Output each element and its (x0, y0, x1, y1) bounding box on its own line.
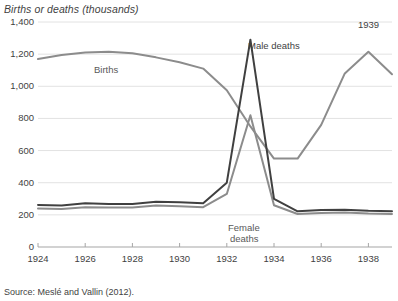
x-axis-tick-label: 1932 (207, 253, 247, 264)
y-axis-tick-label: 400 (0, 177, 34, 188)
series-line-births (38, 52, 392, 159)
y-axis-tick-label: 1,000 (0, 80, 34, 91)
y-axis-tick-label: 800 (0, 112, 34, 123)
male-deaths-series-label: Male deaths (248, 40, 300, 51)
y-axis-title: Births or deaths (thousands) (4, 3, 139, 15)
x-axis-tick-label: 1928 (112, 253, 152, 264)
line-chart-svg (0, 16, 398, 256)
x-axis-tick-label: 1934 (254, 253, 294, 264)
series-line-female-deaths (38, 115, 392, 214)
series-line-male-deaths (38, 40, 392, 212)
y-axis-tick-label: 1,200 (0, 48, 34, 59)
y-axis-tick-label: 200 (0, 209, 34, 220)
year-marker-1939: 1939 (358, 19, 379, 30)
births-series-label: Births (94, 64, 118, 75)
x-axis-tick-label: 1930 (160, 253, 200, 264)
y-axis-tick-label: 600 (0, 145, 34, 156)
chart-root: Births or deaths (thousands) 02004006008… (0, 0, 398, 301)
x-axis-tick-label: 1924 (18, 253, 58, 264)
plot-area (0, 16, 398, 256)
y-axis-tick-label: 0 (0, 241, 34, 252)
female-deaths-series-label-line1: Female (228, 222, 260, 233)
y-axis-tick-label: 1,400 (0, 16, 34, 27)
x-axis-tick-label: 1926 (65, 253, 105, 264)
x-axis-tick-label: 1936 (301, 253, 341, 264)
x-axis-tick-label: 1938 (348, 253, 388, 264)
source-note: Source: Meslé and Vallin (2012). (4, 287, 134, 297)
female-deaths-series-label-line2: deaths (230, 233, 259, 244)
